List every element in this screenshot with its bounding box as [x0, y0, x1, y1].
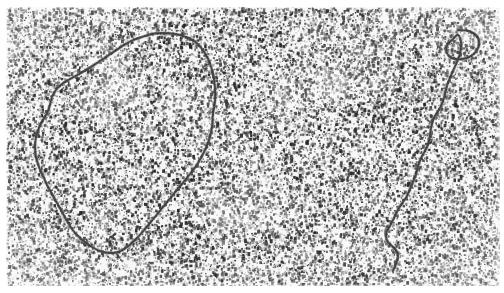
electron-micrograph	[0, 0, 504, 293]
specimen-field	[6, 7, 500, 286]
substrate-grain-texture	[6, 7, 500, 286]
